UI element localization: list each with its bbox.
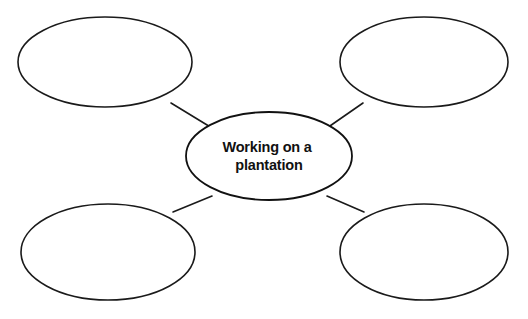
outer-node-bottom-right[interactable] xyxy=(340,204,508,300)
connector-center-to-top-left xyxy=(171,103,212,128)
connector-center-to-bottom-left xyxy=(173,196,212,212)
connector-center-to-bottom-right xyxy=(327,196,364,212)
center-node-label-line2: plantation xyxy=(235,157,302,173)
center-node[interactable] xyxy=(186,112,352,200)
outer-node-top-left[interactable] xyxy=(18,17,192,107)
diagram-canvas: Working on a plantation xyxy=(0,0,528,319)
graphic-organizer-diagram: Working on a plantation xyxy=(0,0,528,319)
outer-node-bottom-left[interactable] xyxy=(21,204,195,300)
outer-node-top-right[interactable] xyxy=(340,17,508,107)
center-node-label-line1: Working on a xyxy=(222,139,312,155)
connector-center-to-top-right xyxy=(327,103,363,128)
